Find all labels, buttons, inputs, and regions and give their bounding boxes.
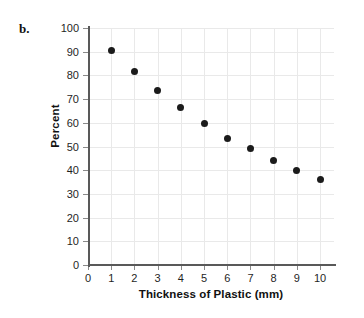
y-tick-label: 10 xyxy=(67,235,79,247)
data-point xyxy=(201,120,208,127)
data-point xyxy=(154,87,161,94)
data-point xyxy=(131,68,138,75)
gridline-vertical xyxy=(297,28,298,265)
data-point xyxy=(108,47,115,54)
y-tick-label: 30 xyxy=(67,188,79,200)
gridline-vertical xyxy=(181,28,182,265)
gridline-vertical xyxy=(111,28,112,265)
gridline-vertical xyxy=(204,28,205,265)
y-axis-line xyxy=(88,26,90,267)
x-tick-label: 7 xyxy=(247,272,253,284)
gridline-vertical xyxy=(158,28,159,265)
y-tick-label: 20 xyxy=(67,212,79,224)
x-tick-label: 1 xyxy=(108,272,114,284)
x-tick-label: 4 xyxy=(178,272,184,284)
part-label: b. xyxy=(19,22,29,35)
x-tick-label: 0 xyxy=(85,272,91,284)
x-tick-label: 9 xyxy=(294,272,300,284)
data-point xyxy=(270,157,277,164)
plot-area: 0102030405060708090100 012345678910 xyxy=(88,28,334,265)
y-tick-label: 70 xyxy=(67,93,79,105)
gridline-vertical xyxy=(274,28,275,265)
x-axis-line xyxy=(88,264,336,266)
gridline-vertical xyxy=(227,28,228,265)
x-axis-title: Thickness of Plastic (mm) xyxy=(88,288,334,300)
gridline-vertical xyxy=(320,28,321,265)
data-point xyxy=(293,167,300,174)
gridline-vertical xyxy=(134,28,135,265)
x-tick-label: 8 xyxy=(271,272,277,284)
x-tick-label: 6 xyxy=(224,272,230,284)
y-tick-label: 60 xyxy=(67,117,79,129)
data-point xyxy=(317,176,324,183)
y-tick-label: 100 xyxy=(61,22,79,34)
x-tick-label: 5 xyxy=(201,272,207,284)
y-tick-label: 80 xyxy=(67,69,79,81)
data-point xyxy=(247,145,254,152)
x-tick-label: 2 xyxy=(131,272,137,284)
y-tick-label: 40 xyxy=(67,164,79,176)
scatter-plot-figure: b. Percent 0102030405060708090100 012345… xyxy=(0,0,364,318)
y-tick-label: 90 xyxy=(67,46,79,58)
data-point xyxy=(224,135,231,142)
y-tick-label: 50 xyxy=(67,141,79,153)
x-tick-label: 3 xyxy=(155,272,161,284)
y-tick-label: 0 xyxy=(73,259,79,271)
y-axis-title: Percent xyxy=(49,66,61,186)
x-tick-label: 10 xyxy=(314,272,326,284)
data-point xyxy=(177,104,184,111)
